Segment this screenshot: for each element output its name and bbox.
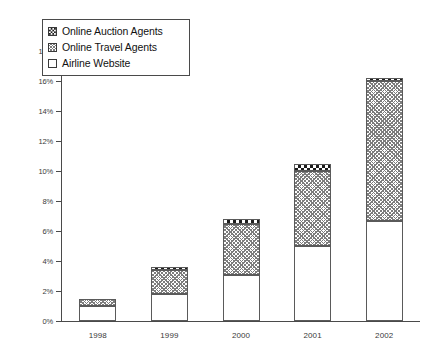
stacked-bar-chart: 0%2%4%6%8%10%12%14%16%18% 19981999200020… [0, 0, 438, 357]
bar-segment-online-travel-agents [151, 270, 188, 294]
hatch-swatch-icon [48, 43, 57, 52]
bar-segment-online-travel-agents [366, 81, 403, 221]
bar-segment-airline-website [79, 306, 116, 321]
white-swatch-icon [48, 59, 57, 68]
legend-item-online-travel-agents: Online Travel Agents [48, 39, 184, 55]
y-axis-tick [56, 261, 61, 262]
y-axis-label: 8% [43, 197, 53, 206]
y-axis-tick [56, 81, 61, 82]
bar-segment-airline-website [366, 221, 403, 322]
bar-segment-airline-website [151, 294, 188, 321]
bar-segment-airline-website [223, 275, 260, 322]
y-axis-label: 4% [43, 257, 53, 266]
y-axis-tick [56, 321, 61, 322]
chart-legend: Online Auction Agents Online Travel Agen… [42, 19, 190, 76]
y-axis-tick [56, 111, 61, 112]
legend-item-label: Online Travel Agents [62, 41, 157, 53]
bar-segment-online-travel-agents [294, 171, 331, 246]
bar-segment-online-auction-agents [366, 78, 403, 81]
y-axis-tick [56, 291, 61, 292]
y-axis-tick [56, 141, 61, 142]
y-axis-label: 6% [43, 227, 53, 236]
bar-segment-online-travel-agents [79, 299, 116, 307]
legend-item-label: Airline Website [62, 57, 130, 69]
legend-item-online-auction-agents: Online Auction Agents [48, 23, 184, 39]
y-axis-tick [56, 231, 61, 232]
y-axis-label: 16% [39, 77, 53, 86]
bar-segment-online-travel-agents [223, 224, 260, 275]
bar-2001 [294, 0, 331, 357]
y-axis-label: 14% [39, 107, 53, 116]
bar-segment-online-auction-agents [294, 164, 331, 172]
y-axis-label: 10% [39, 167, 53, 176]
y-axis-tick [56, 201, 61, 202]
legend-item-airline-website: Airline Website [48, 55, 184, 71]
y-axis-tick [56, 171, 61, 172]
legend-item-label: Online Auction Agents [62, 25, 163, 37]
bar-segment-airline-website [294, 246, 331, 321]
bar-2002 [366, 0, 403, 357]
y-axis-label: 0% [43, 317, 53, 326]
y-axis-label: 2% [43, 287, 53, 296]
bar-segment-online-auction-agents [151, 267, 188, 270]
bar-segment-online-auction-agents [223, 219, 260, 224]
bar-2000 [223, 0, 260, 357]
y-axis-label: 12% [39, 137, 53, 146]
checkerboard-swatch-icon [48, 27, 57, 36]
